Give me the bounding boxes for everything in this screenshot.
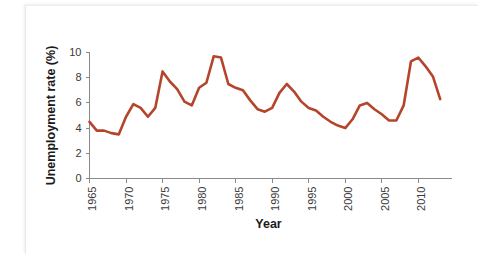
y-tick-label: 2 xyxy=(75,147,81,159)
x-tick-label: 2010 xyxy=(415,187,427,211)
x-tick-label: 1970 xyxy=(123,187,135,211)
y-tick-label: 8 xyxy=(75,71,81,83)
unemployment-rate-line-chart: 0246810 19651970197519801985199019952000… xyxy=(0,0,481,258)
unemployment-rate-line xyxy=(90,56,441,134)
x-tick-label: 1990 xyxy=(269,187,281,211)
x-tick-labels: 1965197019751980198519901995200020052010 xyxy=(86,187,427,211)
y-tick-marks xyxy=(86,53,90,179)
x-tick-label: 1975 xyxy=(159,187,171,211)
y-tick-label: 4 xyxy=(75,122,81,134)
y-tick-label: 0 xyxy=(75,172,81,184)
x-axis: 1965197019751980198519901995200020052010 xyxy=(86,179,451,211)
y-tick-label: 6 xyxy=(75,96,81,108)
x-tick-label: 2000 xyxy=(342,187,354,211)
chart-figure: 0246810 19651970197519801985199019952000… xyxy=(0,0,481,258)
data-series-group xyxy=(90,56,441,134)
y-tick-labels: 0246810 xyxy=(69,46,81,184)
x-tick-label: 1985 xyxy=(233,187,245,211)
x-tick-label: 1995 xyxy=(306,187,318,211)
y-axis-title: Unemployment rate (%) xyxy=(44,46,58,186)
x-axis-title: Year xyxy=(255,217,282,231)
y-tick-label: 10 xyxy=(69,46,81,58)
y-axis: 0246810 xyxy=(69,46,89,184)
x-tick-label: 1980 xyxy=(196,187,208,211)
x-tick-label: 2005 xyxy=(379,187,391,211)
x-tick-marks xyxy=(90,179,419,183)
x-tick-label: 1965 xyxy=(86,187,98,211)
